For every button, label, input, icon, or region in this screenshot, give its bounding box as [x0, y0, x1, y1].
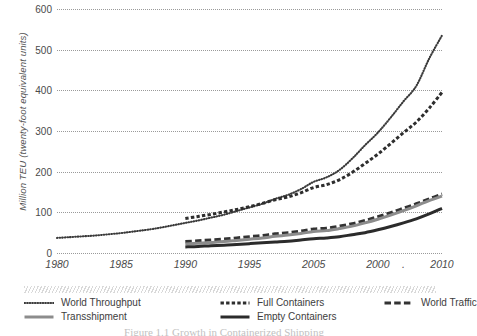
- y-tick-label: 100: [10, 207, 52, 218]
- legend-swatch-icon: [24, 311, 54, 323]
- legend-item[interactable]: Transshipment: [24, 310, 127, 324]
- x-tick-label: .: [402, 258, 405, 270]
- y-tick-label: 200: [10, 166, 52, 177]
- x-tick-label: 1990: [174, 258, 197, 270]
- chart-plot-block: Million TEU (twenty-foot equivalent unit…: [0, 0, 448, 285]
- legend-divider-band: [24, 286, 436, 293]
- y-tick-label: 600: [10, 4, 52, 15]
- x-tick-label: 1980: [45, 258, 68, 270]
- legend-item[interactable]: Empty Containers: [220, 310, 336, 324]
- y-tick-label: 300: [10, 126, 52, 137]
- legend-label: Empty Containers: [257, 311, 336, 323]
- legend-row: TransshipmentEmpty Containers: [24, 310, 448, 324]
- legend-item[interactable]: World Traffic: [384, 296, 477, 310]
- chart-legend: World ThroughputFull ContainersWorld Tra…: [24, 296, 448, 326]
- series-line: [57, 35, 442, 238]
- series-line: [185, 194, 442, 242]
- legend-label: World Throughput: [61, 297, 141, 309]
- x-tick-label: 2005: [302, 258, 325, 270]
- legend-item[interactable]: World Throughput: [24, 296, 141, 310]
- x-tick-label: 2000: [366, 258, 389, 270]
- series-line: [185, 196, 442, 244]
- legend-label: Full Containers: [257, 297, 324, 309]
- legend-swatch-icon: [24, 297, 54, 309]
- legend-swatch-icon: [220, 297, 250, 309]
- figure-caption: Figure 1.1 Growth in Containerized Shipp…: [0, 326, 448, 336]
- legend-swatch-icon: [384, 297, 414, 309]
- x-tick-label: 1995: [238, 258, 261, 270]
- x-tick-label: 2010: [430, 258, 453, 270]
- y-tick-label: 0: [10, 248, 52, 259]
- legend-swatch-icon: [220, 311, 250, 323]
- gridline: [57, 253, 442, 254]
- series-lines: [57, 9, 442, 253]
- x-axis-tick-labels: 198019851990199520052000.2010: [0, 258, 448, 274]
- series-line: [185, 92, 442, 218]
- legend-label: World Traffic: [421, 297, 477, 309]
- y-tick-label: 500: [10, 44, 52, 55]
- y-axis-tick-labels: 0100200300400500600: [8, 9, 52, 253]
- y-tick-label: 400: [10, 85, 52, 96]
- legend-row: World ThroughputFull ContainersWorld Tra…: [24, 296, 448, 310]
- legend-label: Transshipment: [61, 311, 127, 323]
- legend-item[interactable]: Full Containers: [220, 296, 324, 310]
- x-tick-label: 1985: [109, 258, 132, 270]
- plot-area: [57, 9, 442, 253]
